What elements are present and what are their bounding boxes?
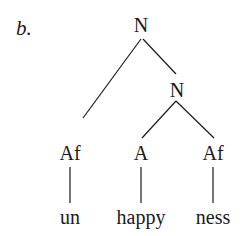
branch-n-to-a xyxy=(142,101,176,138)
tree-branches xyxy=(0,0,252,236)
node-af-suffix: Af xyxy=(202,143,223,163)
node-inner-n: N xyxy=(170,80,184,100)
morpheme-un: un xyxy=(60,207,80,227)
morpheme-happy: happy xyxy=(117,207,166,227)
branch-root-to-n xyxy=(143,39,176,74)
branch-n-to-af2 xyxy=(176,101,214,138)
branch-root-to-af1 xyxy=(83,39,141,118)
node-af-prefix: Af xyxy=(59,143,80,163)
node-a: A xyxy=(134,143,148,163)
node-root-n: N xyxy=(134,15,148,35)
morpheme-ness: ness xyxy=(196,207,230,227)
